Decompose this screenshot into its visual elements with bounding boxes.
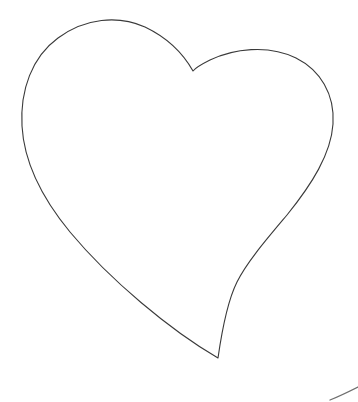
heart-illustration [0, 0, 358, 402]
drawing-canvas [0, 0, 358, 402]
